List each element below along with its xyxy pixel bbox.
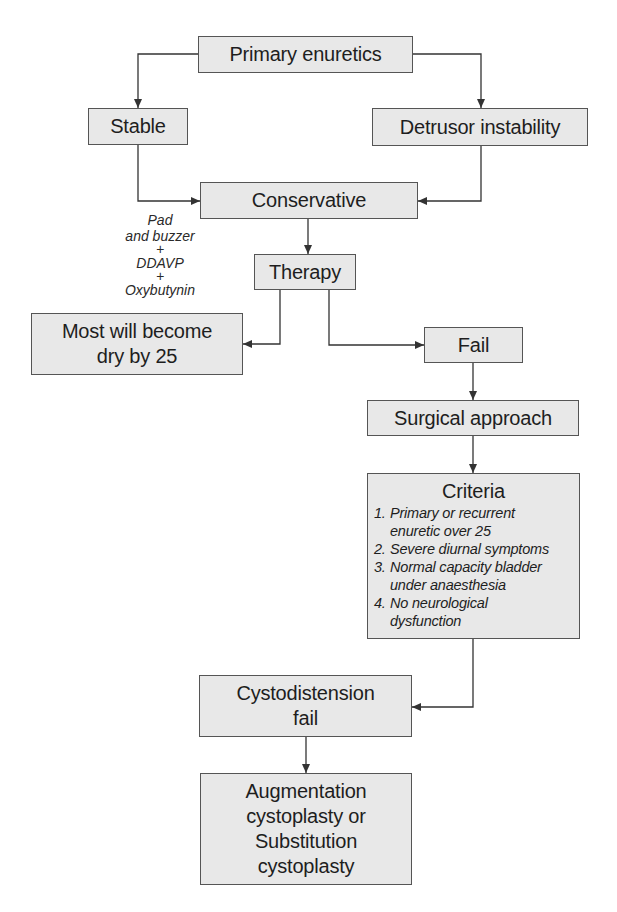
node-conservative: Conservative bbox=[200, 182, 418, 219]
node-label-line: dry by 25 bbox=[97, 344, 177, 369]
therapy-note: Pad and buzzer + DDAVP + Oxybutynin bbox=[92, 212, 228, 298]
node-most-will-become-dry: Most will become dry by 25 bbox=[31, 313, 243, 375]
note-line: Pad bbox=[92, 212, 228, 228]
criteria-item: 3. Normal capacity bladderunder anaesthe… bbox=[374, 558, 579, 594]
criteria-list: 1. Primary or recurrentenuretic over 25 … bbox=[368, 504, 579, 630]
criteria-number: 1. bbox=[374, 504, 390, 540]
criteria-text: Severe diurnal symptoms bbox=[390, 540, 549, 558]
criteria-number: 2. bbox=[374, 540, 390, 558]
node-label-line: fail bbox=[293, 706, 318, 731]
criteria-item: 1. Primary or recurrentenuretic over 25 bbox=[374, 504, 579, 540]
node-label: Detrusor instability bbox=[400, 115, 561, 140]
note-line: + bbox=[92, 271, 228, 282]
node-therapy: Therapy bbox=[254, 254, 356, 290]
node-label: Primary enuretics bbox=[229, 42, 381, 67]
node-label: Therapy bbox=[269, 260, 341, 285]
node-label: Surgical approach bbox=[394, 406, 552, 431]
criteria-title: Criteria bbox=[442, 479, 505, 503]
node-label-line: Substitution bbox=[255, 829, 357, 854]
criteria-text: dysfunction bbox=[390, 613, 461, 629]
node-detrusor-instability: Detrusor instability bbox=[372, 108, 588, 146]
node-fail: Fail bbox=[424, 327, 523, 363]
criteria-item: 4. No neurologicaldysfunction bbox=[374, 594, 579, 630]
note-line: + bbox=[92, 244, 228, 255]
node-augmentation-substitution: Augmentation cystoplasty or Substitution… bbox=[200, 773, 412, 885]
node-label-line: cystoplasty or bbox=[246, 804, 365, 829]
node-label-line: cystoplasty bbox=[258, 854, 355, 879]
node-stable: Stable bbox=[88, 108, 188, 145]
node-surgical-approach: Surgical approach bbox=[367, 400, 579, 436]
note-line: Oxybutynin bbox=[92, 282, 228, 298]
criteria-number: 4. bbox=[374, 594, 390, 630]
node-label: Fail bbox=[458, 333, 489, 358]
criteria-text: Primary or recurrent bbox=[390, 505, 515, 521]
node-label: Conservative bbox=[252, 188, 366, 213]
criteria-item: 2. Severe diurnal symptoms bbox=[374, 540, 579, 558]
criteria-text: No neurological bbox=[390, 595, 488, 611]
node-label: Stable bbox=[110, 114, 166, 139]
criteria-text: enuretic over 25 bbox=[390, 523, 491, 539]
node-label-line: Most will become bbox=[62, 319, 212, 344]
criteria-text: under anaesthesia bbox=[390, 577, 506, 593]
criteria-text: Normal capacity bladder bbox=[390, 559, 542, 575]
criteria-number: 3. bbox=[374, 558, 390, 594]
node-cystodistension-fail: Cystodistension fail bbox=[199, 675, 412, 737]
node-criteria: Criteria 1. Primary or recurrentenuretic… bbox=[367, 473, 580, 639]
node-label-line: Cystodistension bbox=[236, 681, 374, 706]
node-label-line: Augmentation bbox=[245, 779, 366, 804]
node-primary-enuretics: Primary enuretics bbox=[198, 36, 413, 73]
